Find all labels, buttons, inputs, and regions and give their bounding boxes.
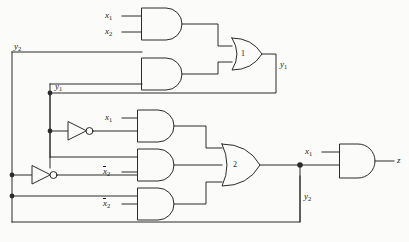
- junction-y2-output: [297, 162, 303, 168]
- label-x1-and1: x1: [105, 11, 112, 21]
- junction-y1-not1: [48, 129, 53, 134]
- gate-and-1: [142, 8, 182, 40]
- gate-and-3: [138, 110, 174, 142]
- label-x1-and3: x1: [105, 113, 112, 123]
- wire-and5-to-or2: [174, 182, 222, 204]
- junction-y2-not2: [10, 173, 15, 178]
- label-x2bar-and4: x2: [103, 167, 110, 177]
- wire-and2-to-or1: [182, 62, 232, 74]
- label-x2-and1: x2: [105, 27, 112, 37]
- circuit-schematic: [0, 0, 409, 242]
- label-y1-output: y1: [280, 60, 287, 70]
- gate-and-4: [138, 149, 174, 181]
- label-x1-and6: x1: [305, 147, 312, 157]
- not2-bubble: [50, 172, 57, 179]
- label-y1-bus: y1: [55, 82, 62, 92]
- junction-y2-and5: [10, 194, 15, 199]
- gate-not-1: [68, 122, 86, 140]
- gate-and-6: [340, 144, 375, 178]
- label-y2-bus: y2: [14, 42, 21, 52]
- label-z-output: z: [397, 156, 401, 165]
- gate-or-1: [232, 38, 262, 70]
- label-or2-number: 2: [233, 161, 237, 169]
- gate-and-2: [142, 58, 182, 90]
- label-x2bar-and5: x2: [103, 199, 110, 209]
- gate-or-2: [222, 144, 260, 186]
- gate-not-2: [32, 166, 50, 184]
- gate-and-5: [138, 188, 174, 220]
- circuit-diagram: x1 x2 y2 y1 y1 x1 x2 x2 y2 x1 z 1 2: [0, 0, 409, 242]
- label-or1-number: 1: [241, 50, 245, 58]
- wire-and1-to-or1: [182, 24, 232, 46]
- junction-y1-bus: [48, 91, 53, 96]
- not1-bubble: [86, 128, 93, 135]
- label-y2-output: y2: [304, 192, 311, 202]
- wire-and3-to-or2: [174, 126, 222, 148]
